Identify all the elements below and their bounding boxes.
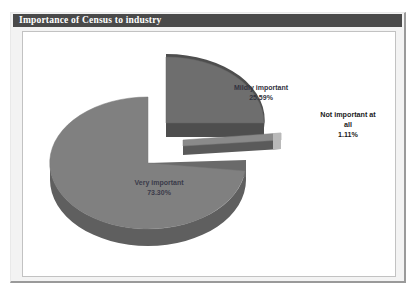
slice-label-very-important: Very important 73.30% <box>119 178 199 197</box>
page-title: Importance of Census to industry <box>19 14 162 27</box>
slice-label-not-important-at-all: Not important at all 1.11% <box>306 110 390 140</box>
slice-mildly-important-depth <box>166 122 264 135</box>
title-bar: Importance of Census to industry <box>13 14 402 27</box>
pie-chart: Very important 73.30% Mildly important 2… <box>23 32 395 276</box>
pie-chart-svg <box>23 32 397 278</box>
slice-not-important-highlight <box>273 133 281 149</box>
chart-window: Importance of Census to industry <box>10 12 406 283</box>
slice-label-mildly-important: Mildly important 25.59% <box>221 83 301 102</box>
plot-frame: Very important 73.30% Mildly important 2… <box>22 31 396 277</box>
